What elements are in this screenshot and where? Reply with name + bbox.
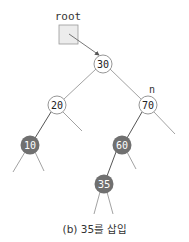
edge-60-right-null [127, 152, 136, 169]
node-35-value: 35 [98, 179, 111, 190]
diagram-caption: (b) 35를 삽입 [63, 223, 128, 235]
root-label: root [55, 10, 82, 23]
edge-30-70 [110, 69, 141, 99]
node-20-value: 20 [51, 100, 63, 111]
node-30-value: 30 [97, 59, 109, 70]
root-arrow [69, 34, 99, 55]
edge-30-20 [64, 69, 96, 99]
edge-10-right-null [35, 152, 44, 171]
node-60-value: 60 [116, 140, 128, 151]
root-pointer-box [59, 25, 78, 44]
pointer-n-label: n [149, 84, 155, 95]
edge-60-35 [107, 152, 116, 176]
edge-35-right-null [107, 192, 113, 214]
node-70-value: 70 [142, 100, 154, 111]
node-35: 35 [95, 175, 114, 194]
node-20: 20 [48, 96, 66, 114]
edge-10-left-null [13, 152, 25, 172]
node-10-value: 10 [24, 140, 36, 151]
edge-70-right-null [154, 112, 175, 134]
node-10: 10 [21, 136, 40, 155]
node-30: 30 [94, 55, 112, 73]
edge-35-left-null [94, 192, 100, 214]
bst-diagram: root 30 20 70 n 10 60 35 (b) 35를 삽입 [0, 0, 189, 242]
edge-70-60 [127, 112, 142, 138]
node-60: 60 [113, 136, 132, 155]
edge-20-right-null [63, 112, 82, 131]
edge-20-10 [35, 112, 51, 138]
node-70: 70 [139, 96, 157, 114]
